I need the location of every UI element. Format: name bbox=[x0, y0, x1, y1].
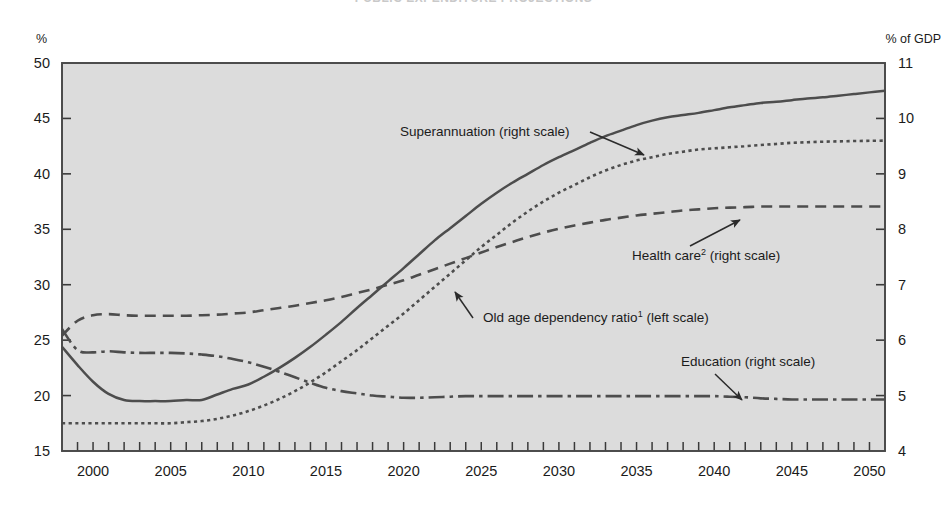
y-axis-left-tick-label: 50 bbox=[34, 55, 50, 71]
y-axis-right-tick-label: 11 bbox=[898, 55, 913, 71]
y-axis-left-tick-label: 45 bbox=[34, 110, 50, 126]
y-axis-left-tick-label: 20 bbox=[34, 388, 50, 404]
x-axis-tick-label: 2000 bbox=[77, 463, 109, 479]
x-axis-tick-label: 2005 bbox=[155, 463, 187, 479]
x-axis-tick-label: 2040 bbox=[698, 463, 730, 479]
superannuation-label-text: Superannuation (right scale) bbox=[400, 124, 570, 139]
x-axis-tick-label: 2050 bbox=[853, 463, 885, 479]
y-axis-left-tick-label: 30 bbox=[34, 277, 50, 293]
y-axis-left-tick-label: 35 bbox=[34, 221, 50, 237]
health-care-label-text: Health care2 (right scale) bbox=[632, 247, 780, 263]
y-axis-left-tick-label: 25 bbox=[34, 332, 50, 348]
x-axis-tick-label: 2020 bbox=[387, 463, 419, 479]
y-axis-left-tick-label: 40 bbox=[34, 166, 50, 182]
old-age-label-text: Old age dependency ratio1 (left scale) bbox=[483, 309, 709, 325]
y-axis-right-tick-label: 4 bbox=[898, 443, 906, 459]
education-label-text: Education (right scale) bbox=[681, 354, 815, 369]
y-axis-right-tick-label: 7 bbox=[898, 277, 906, 293]
chart-figure: PUBLIC EXPENDITURE PROJECTIONS % % of GD… bbox=[0, 0, 947, 514]
y-axis-right-tick-label: 9 bbox=[898, 166, 906, 182]
x-axis-tick-label: 2015 bbox=[310, 463, 342, 479]
x-axis-tick-label: 2025 bbox=[465, 463, 497, 479]
y-axis-right-tick-label: 8 bbox=[898, 221, 906, 237]
x-axis-tick-label: 2045 bbox=[776, 463, 808, 479]
y-axis-left-tick-label: 15 bbox=[34, 443, 50, 459]
y-axis-right-tick-label: 10 bbox=[898, 110, 914, 126]
x-axis-tick-label: 2010 bbox=[232, 463, 264, 479]
y-axis-right-tick-label: 5 bbox=[898, 388, 906, 404]
y-axis-right-tick-label: 6 bbox=[898, 332, 906, 348]
x-axis-tick-label: 2030 bbox=[543, 463, 575, 479]
x-axis-tick-label: 2035 bbox=[620, 463, 652, 479]
chart-plot: 1520253035404550456789101120002005201020… bbox=[0, 0, 947, 514]
